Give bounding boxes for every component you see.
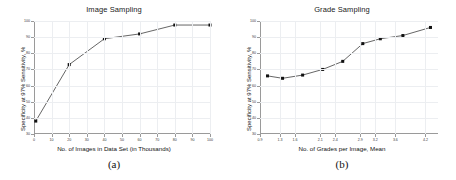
y-axis-tick-label: 90 [252,35,256,39]
data-point-marker [281,77,284,80]
x-axis-tick [157,134,158,137]
gridline-vertical [87,21,88,134]
gridline-vertical [375,21,376,134]
x-axis-tick [395,134,396,137]
gridline-vertical [280,21,281,134]
gridline-vertical [360,21,361,134]
x-axis-tick-label: 100 [207,138,213,142]
x-axis-tick [34,134,35,137]
x-axis-tick-label: 80 [173,138,177,142]
x-axis-tick [280,134,281,137]
gridline-horizontal [260,86,438,87]
y-axis-tick [257,118,260,119]
y-axis-tick [257,69,260,70]
plot-canvas-a: 304050607080901000102030405060708090100 [34,21,210,134]
chart-panel-a: Image Sampling Specificity at 97% Sensit… [0,0,228,180]
x-axis-tick-label: 90 [190,138,194,142]
x-axis-tick-label: 40 [102,138,106,142]
y-axis-tick [31,53,34,54]
y-axis-tick-label: 100 [24,19,30,23]
data-point-marker [361,42,364,45]
gridline-vertical [425,21,426,134]
y-axis-tick [257,102,260,103]
chart-panel-b: Grade Sampling Specificity at 97% Sensit… [228,0,456,180]
y-axis-tick-label: 90 [26,35,30,39]
x-axis-tick-label: 20 [67,138,71,142]
gridline-vertical [140,21,141,134]
y-axis-tick-label: 80 [252,51,256,55]
x-axis-tick [425,134,426,137]
x-axis-tick-label: 4.2 [423,138,428,142]
y-axis-tick-label: 60 [26,84,30,88]
gridline-vertical [175,21,176,134]
y-axis-tick-label: 70 [26,67,30,71]
y-axis-tick [31,37,34,38]
x-axis-tick-label: 1.6 [293,138,298,142]
y-axis-tick-label: 60 [252,84,256,88]
gridline-vertical [320,21,321,134]
x-axis-tick-label: 1.3 [278,138,283,142]
chart-title-a: Image Sampling [0,5,228,14]
data-point-marker [266,74,269,77]
x-axis-tick-label: 2.4 [333,138,338,142]
x-axis-tick [320,134,321,137]
y-axis-tick-label: 40 [26,116,30,120]
x-axis-tick-label: 2.9 [358,138,363,142]
y-axis-tick-label: 30 [252,132,256,136]
x-axis-tick-label: 10 [50,138,54,142]
gridline-vertical [52,21,53,134]
gridline-vertical [192,21,193,134]
x-axis-tick [192,134,193,137]
y-axis-tick-label: 80 [26,51,30,55]
x-axis-title-a: No. of Images in Data Set (in Thousands) [0,145,228,152]
y-axis-tick [257,37,260,38]
gridline-vertical [122,21,123,134]
figure-container: Image Sampling Specificity at 97% Sensit… [0,0,456,180]
x-axis-tick-label: 60 [138,138,142,142]
x-axis-tick-label: 3.6 [393,138,398,142]
chart-title-b: Grade Sampling [228,5,456,14]
x-axis-tick [375,134,376,137]
gridline-horizontal [260,53,438,54]
subcaption-a: (a) [0,158,228,170]
y-axis-tick [31,69,34,70]
x-axis-tick-label: 0 [33,138,35,142]
x-axis-tick-label: 50 [120,138,124,142]
gridline-vertical [210,21,211,134]
y-axis-tick-label: 100 [250,19,256,23]
x-axis-tick-label: 3.2 [373,138,378,142]
plot-area-b: 304050607080901000.91.31.62.12.42.93.23.… [260,21,438,134]
gridline-horizontal [260,102,438,103]
x-axis-tick [87,134,88,137]
y-axis-tick-label: 50 [26,100,30,104]
gridline-horizontal [260,21,438,22]
x-axis-tick [104,134,105,137]
gridline-vertical [69,21,70,134]
gridline-vertical [295,21,296,134]
x-axis-tick [52,134,53,137]
x-axis-tick [210,134,211,137]
x-axis-tick-label: 30 [85,138,89,142]
subcaption-b: (b) [228,158,456,170]
y-axis-tick [31,86,34,87]
data-point-marker [429,26,432,29]
x-axis-tick [175,134,176,137]
gridline-vertical [104,21,105,134]
x-axis-tick [260,134,261,137]
x-axis-tick [295,134,296,137]
data-point-marker [301,74,304,77]
y-axis-tick-label: 30 [26,132,30,136]
gridline-horizontal [260,37,438,38]
data-point-marker [34,120,37,123]
x-axis-title-b: No. of Grades per Image, Mean [228,145,456,152]
y-axis-tick [257,53,260,54]
x-axis-tick-label: 2.1 [318,138,323,142]
x-axis-tick-label: 0.9 [258,138,263,142]
gridline-vertical [157,21,158,134]
y-axis-tick [31,102,34,103]
y-axis-tick [257,86,260,87]
plot-area-a: 304050607080901000102030405060708090100 [34,21,210,134]
x-axis-tick [122,134,123,137]
x-axis-tick-label: 70 [155,138,159,142]
y-axis-tick-label: 70 [252,67,256,71]
